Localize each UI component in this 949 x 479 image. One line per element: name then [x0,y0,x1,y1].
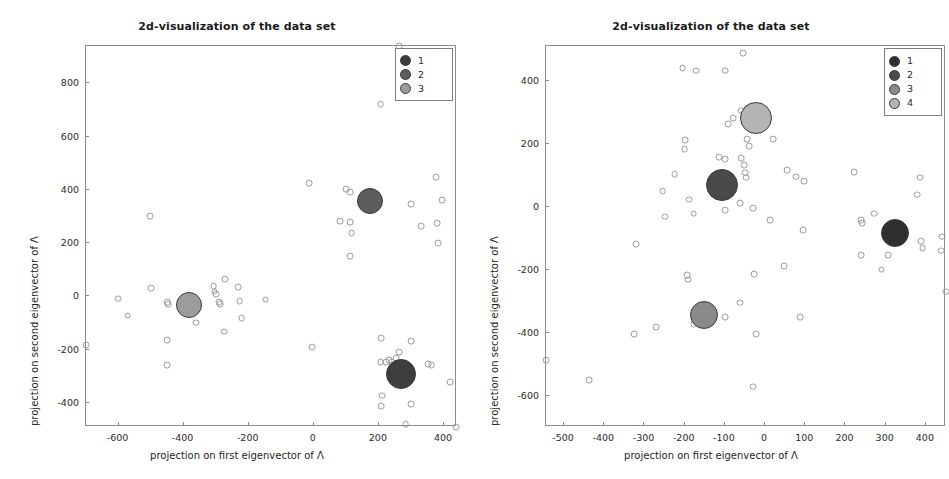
x-tick [248,422,249,426]
data-point [681,146,688,153]
cluster-centroid [176,292,202,318]
y-tick-label: 200 [521,137,539,148]
legend-item-1[interactable]: 1 [400,54,447,68]
data-point [306,180,313,187]
data-point [379,392,386,399]
x-tick [443,422,444,426]
x-tick [684,422,685,426]
data-point [347,253,354,260]
data-point [685,276,692,283]
y-tick [85,136,89,137]
data-point [730,114,737,121]
y-tick [545,80,549,81]
data-point [348,230,355,237]
data-point [721,156,728,163]
cluster-centroid [740,102,772,134]
x-tick [764,422,765,426]
data-point [918,238,925,245]
scatter-canvas-left [86,46,455,425]
data-point [222,276,229,283]
legend-label: 3 [418,84,424,94]
x-tick-label: -500 [552,432,574,443]
legend-item-3[interactable]: 3 [400,82,447,96]
legend-item-2[interactable]: 2 [889,68,936,82]
x-tick [603,422,604,426]
x-tick-label: 0 [310,432,316,443]
data-point [767,216,774,223]
legend-label: 1 [907,56,913,66]
data-point [453,424,460,431]
legend-item-3[interactable]: 3 [889,82,936,96]
data-point [633,240,640,247]
legend-marker-icon [889,56,900,67]
x-tick [183,422,184,426]
data-point [408,401,415,408]
data-point [744,135,751,142]
data-point [114,295,121,302]
x-tick-label: -300 [633,432,655,443]
data-point [652,323,659,330]
x-tick [885,422,886,426]
x-tick-label: -200 [237,432,259,443]
legend-left[interactable]: 123 [395,48,453,101]
data-point [124,312,131,319]
data-point [378,335,385,342]
data-point [337,218,344,225]
x-axis-label-right: projection on first eigenvector of Λ [474,450,948,461]
data-point [659,188,666,195]
data-point [347,218,354,225]
data-point [859,220,866,227]
x-tick [804,422,805,426]
y-tick-label: 600 [61,130,79,141]
data-point [685,196,692,203]
data-point [690,210,697,217]
x-tick [313,422,314,426]
data-point [938,247,945,254]
x-tick-label: 200 [835,432,853,443]
data-point [800,227,807,234]
legend-item-4[interactable]: 4 [889,96,936,110]
data-point [770,135,777,142]
data-point [871,210,878,217]
data-point [725,121,732,128]
y-tick [545,269,549,270]
x-tick-label: 400 [916,432,934,443]
y-tick [545,395,549,396]
y-tick-label: 400 [61,183,79,194]
legend-item-1[interactable]: 1 [889,54,936,68]
y-tick [545,143,549,144]
data-point [793,173,800,180]
data-point [163,337,170,344]
x-tick-label: 300 [876,432,894,443]
x-tick-label: 0 [761,432,767,443]
y-tick [85,295,89,296]
data-point [221,328,228,335]
x-tick [844,422,845,426]
data-point [784,167,791,174]
figure-container: 2d-visualization of the data set -600-40… [0,0,949,479]
legend-right[interactable]: 1234 [884,48,942,116]
data-point [741,162,748,169]
y-tick-label: -200 [57,343,79,354]
legend-item-2[interactable]: 2 [400,68,447,82]
x-tick [563,422,564,426]
data-point [914,191,921,198]
data-point [721,67,728,74]
legend-marker-icon [889,70,900,81]
legend-marker-icon [889,84,900,95]
x-tick-label: -100 [713,432,735,443]
cluster-centroid [881,219,909,247]
data-point [147,213,154,220]
x-tick-label: -200 [673,432,695,443]
data-point [737,199,744,206]
data-point [433,220,440,227]
x-tick [925,422,926,426]
scatter-panel-left: 2d-visualization of the data set -600-40… [0,0,474,479]
data-point [738,154,745,161]
y-tick-label: 200 [61,237,79,248]
data-point [721,206,728,213]
x-tick-label: 400 [434,432,452,443]
data-point [165,301,172,308]
data-point [916,174,923,181]
legend-marker-icon [889,98,900,109]
